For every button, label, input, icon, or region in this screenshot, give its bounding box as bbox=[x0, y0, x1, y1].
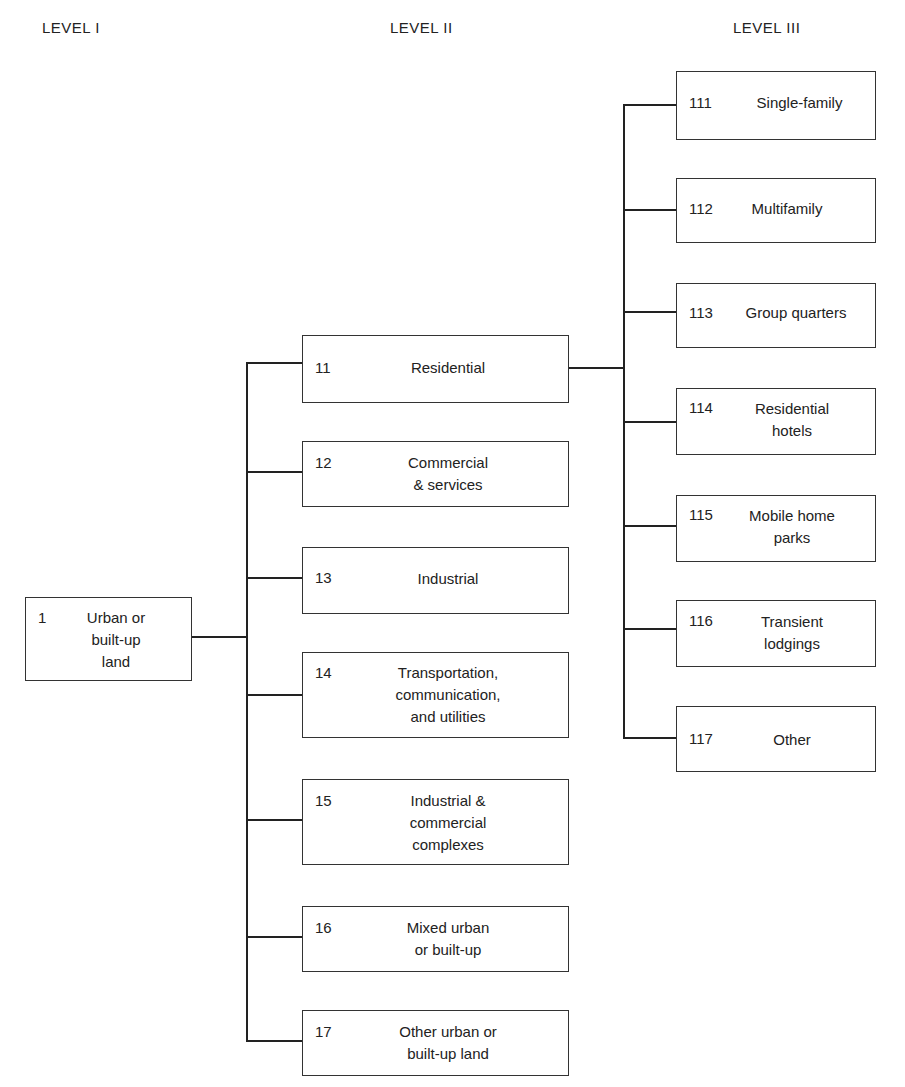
connector-level1 bbox=[191, 636, 248, 638]
node-label: Single-family bbox=[727, 92, 872, 114]
connector-13 bbox=[246, 577, 302, 579]
connector-residential bbox=[568, 367, 625, 369]
node-label: Mobile home parks bbox=[727, 505, 857, 549]
node-111-single-family: 111 Single-family bbox=[676, 71, 876, 140]
node-label: Multifamily bbox=[727, 198, 847, 220]
connector-17 bbox=[246, 1040, 302, 1042]
node-16-mixed-urban: 16 Mixed urban or built-up bbox=[302, 906, 569, 972]
node-label: Industrial bbox=[358, 568, 538, 590]
node-15-industrial-commercial: 15 Industrial & commercial complexes bbox=[302, 779, 569, 865]
header-level-2: LEVEL II bbox=[390, 19, 453, 36]
node-code: 1 bbox=[38, 609, 46, 626]
node-13-industrial: 13 Industrial bbox=[302, 547, 569, 614]
node-label: Transportation, communication, and utili… bbox=[358, 662, 538, 728]
header-level-3: LEVEL III bbox=[733, 19, 800, 36]
node-label: Other urban or built-up land bbox=[358, 1021, 538, 1065]
node-code: 13 bbox=[315, 569, 332, 586]
connector-114 bbox=[623, 421, 676, 423]
node-12-commercial: 12 Commercial & services bbox=[302, 441, 569, 507]
node-label: Other bbox=[727, 729, 857, 751]
node-code: 112 bbox=[689, 200, 713, 217]
node-label: Industrial & commercial complexes bbox=[358, 790, 538, 856]
node-code: 113 bbox=[689, 304, 713, 321]
header-level-1: LEVEL I bbox=[42, 19, 100, 36]
node-code: 12 bbox=[315, 454, 332, 471]
node-code: 116 bbox=[689, 612, 713, 629]
node-code: 114 bbox=[689, 399, 713, 416]
node-code: 11 bbox=[315, 359, 331, 376]
connector-115 bbox=[623, 525, 676, 527]
node-17-other-urban: 17 Other urban or built-up land bbox=[302, 1010, 569, 1076]
node-code: 111 bbox=[689, 94, 712, 111]
node-code: 15 bbox=[315, 792, 332, 809]
node-116-transient-lodgings: 116 Transient lodgings bbox=[676, 600, 876, 667]
connector-113 bbox=[623, 311, 676, 313]
node-117-other: 117 Other bbox=[676, 706, 876, 772]
node-code: 115 bbox=[689, 506, 713, 523]
node-112-multifamily: 112 Multifamily bbox=[676, 178, 876, 243]
connector-16 bbox=[246, 936, 302, 938]
node-code: 117 bbox=[689, 730, 713, 747]
node-label: Residential hotels bbox=[727, 398, 857, 442]
node-label: Group quarters bbox=[721, 302, 871, 324]
node-label: Residential bbox=[358, 357, 538, 379]
node-label: Transient lodgings bbox=[727, 611, 857, 655]
node-code: 17 bbox=[315, 1023, 332, 1040]
node-114-residential-hotels: 114 Residential hotels bbox=[676, 388, 876, 455]
trunk-level2 bbox=[246, 362, 248, 1042]
connector-14 bbox=[246, 694, 302, 696]
node-115-mobile-home-parks: 115 Mobile home parks bbox=[676, 495, 876, 562]
node-1-urban: 1 Urban or built-up land bbox=[25, 597, 192, 681]
node-113-group-quarters: 113 Group quarters bbox=[676, 283, 876, 348]
node-code: 16 bbox=[315, 919, 332, 936]
connector-11 bbox=[246, 362, 302, 364]
connector-15 bbox=[246, 819, 302, 821]
node-14-transportation: 14 Transportation, communication, and ut… bbox=[302, 652, 569, 738]
node-label: Commercial & services bbox=[358, 452, 538, 496]
connector-112 bbox=[623, 209, 676, 211]
connector-12 bbox=[246, 471, 302, 473]
connector-111 bbox=[623, 104, 676, 106]
connector-116 bbox=[623, 628, 676, 630]
node-11-residential: 11 Residential bbox=[302, 335, 569, 403]
node-label: Mixed urban or built-up bbox=[358, 917, 538, 961]
connector-117 bbox=[623, 737, 676, 739]
node-label: Urban or built-up land bbox=[66, 607, 166, 673]
node-code: 14 bbox=[315, 664, 332, 681]
